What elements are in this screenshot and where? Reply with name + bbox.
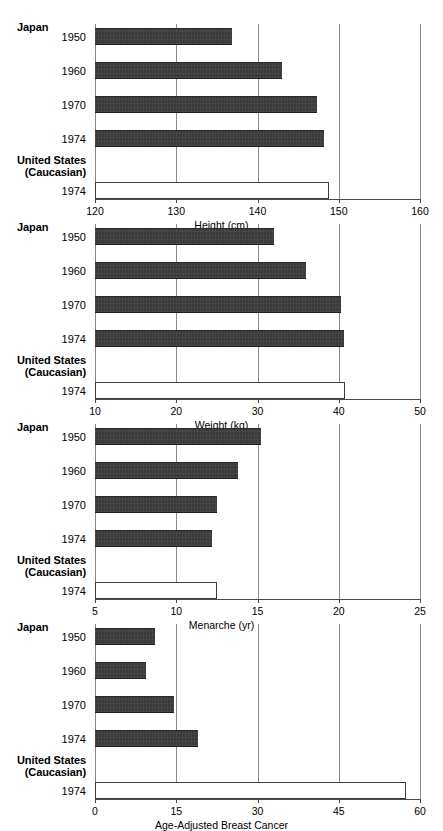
gridline-15: [176, 624, 177, 799]
group-label-us-line2: (Caucasian): [25, 367, 86, 378]
chart-panel-1: Japan1950196019701974United States(Cauca…: [0, 0, 443, 200]
bar-japan-1950: [95, 228, 274, 245]
x-tick-label-45: 45: [319, 805, 359, 817]
bar-japan-1974: [95, 730, 198, 747]
year-label-japan-1970: 1970: [62, 100, 86, 111]
x-tick-label-0: 0: [75, 805, 115, 817]
year-label-japan-1974: 1974: [62, 534, 86, 545]
x-axis-title: Age-Adjusted Breast Cancer: [0, 819, 443, 831]
x-tick-label-60: 60: [400, 805, 440, 817]
year-label-japan-1974: 1974: [62, 334, 86, 345]
gridline-20: [339, 424, 340, 599]
chart-panel-2: Japan1950196019701974United States(Cauca…: [0, 200, 443, 400]
year-label-japan-1950: 1950: [62, 32, 86, 43]
year-label-japan-1960: 1960: [62, 66, 86, 77]
x-tick-label-30: 30: [238, 805, 278, 817]
group-label-us-line1: United States: [17, 555, 86, 566]
bar-japan-1950: [95, 428, 261, 445]
year-label-japan-1970: 1970: [62, 500, 86, 511]
bar-us-1974: [95, 782, 406, 799]
bar-us-1974: [95, 582, 217, 599]
figure-root: Japan1950196019701974United States(Cauca…: [0, 0, 443, 831]
group-label-us-line1: United States: [17, 755, 86, 766]
gridline-50: [420, 224, 421, 399]
bar-japan-1974: [95, 330, 344, 347]
group-label-us-line2: (Caucasian): [25, 767, 86, 778]
bar-us-1974: [95, 182, 329, 199]
bar-japan-1960: [95, 262, 306, 279]
bar-japan-1950: [95, 628, 155, 645]
x-tick-45: [339, 799, 340, 803]
gridline-60: [420, 624, 421, 799]
bar-us-1974: [95, 382, 345, 399]
year-label-us-1974: 1974: [62, 786, 86, 797]
bar-japan-1960: [95, 462, 238, 479]
year-label-japan-1960: 1960: [62, 266, 86, 277]
year-label-japan-1974: 1974: [62, 134, 86, 145]
chart-panel-4: Japan1950196019701974United States(Cauca…: [0, 600, 443, 831]
year-label-japan-1974: 1974: [62, 734, 86, 745]
bar-japan-1970: [95, 496, 217, 513]
year-label-japan-1950: 1950: [62, 232, 86, 243]
x-tick-0: [95, 799, 96, 803]
gridline-160: [420, 24, 421, 199]
year-label-japan-1970: 1970: [62, 700, 86, 711]
group-label-us-line1: United States: [17, 355, 86, 366]
year-label-japan-1950: 1950: [62, 432, 86, 443]
year-label-japan-1960: 1960: [62, 466, 86, 477]
bar-japan-1960: [95, 62, 282, 79]
x-tick-60: [420, 799, 421, 803]
bar-japan-1970: [95, 96, 317, 113]
year-label-japan-1950: 1950: [62, 632, 86, 643]
group-label-us-line2: (Caucasian): [25, 567, 86, 578]
bar-japan-1970: [95, 696, 174, 713]
x-tick-label-15: 15: [156, 805, 196, 817]
chart-panel-3: Japan1950196019701974United States(Cauca…: [0, 400, 443, 600]
bar-japan-1974: [95, 530, 212, 547]
group-label-us-line2: (Caucasian): [25, 167, 86, 178]
gridline-45: [339, 624, 340, 799]
year-label-us-1974: 1974: [62, 186, 86, 197]
x-tick-30: [258, 799, 259, 803]
gridline-30: [258, 624, 259, 799]
gridline-25: [420, 424, 421, 599]
year-label-japan-1970: 1970: [62, 300, 86, 311]
group-label-us-line1: United States: [17, 155, 86, 166]
bar-japan-1950: [95, 28, 232, 45]
gridline-150: [339, 24, 340, 199]
gridline-15: [258, 424, 259, 599]
x-tick-15: [176, 799, 177, 803]
bar-japan-1974: [95, 130, 324, 147]
bar-japan-1970: [95, 296, 341, 313]
bar-japan-1960: [95, 662, 146, 679]
year-label-us-1974: 1974: [62, 586, 86, 597]
year-label-us-1974: 1974: [62, 386, 86, 397]
year-label-japan-1960: 1960: [62, 666, 86, 677]
